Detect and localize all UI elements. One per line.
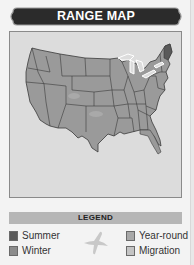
summer-swatch bbox=[9, 231, 18, 241]
us-map bbox=[10, 32, 181, 197]
page-title: RANGE MAP bbox=[9, 7, 183, 26]
range-map-card: RANGE MAP bbox=[0, 0, 190, 265]
header-banner: RANGE MAP bbox=[9, 7, 183, 26]
legend-item-summer: Summer bbox=[9, 230, 60, 242]
bird-silhouette-icon bbox=[80, 229, 110, 261]
legend-item-winter: Winter bbox=[9, 245, 51, 257]
legend-title: LEGEND bbox=[9, 212, 182, 224]
legend-label: Winter bbox=[22, 245, 51, 257]
maine-summer-range bbox=[164, 44, 172, 60]
legend-item-year-round: Year-round bbox=[126, 230, 188, 242]
legend-label: Summer bbox=[22, 230, 60, 242]
legend-label: Migration bbox=[139, 245, 180, 257]
migration-swatch bbox=[126, 246, 135, 256]
range-map bbox=[9, 31, 182, 198]
winter-swatch bbox=[9, 246, 18, 256]
year-round-swatch bbox=[126, 231, 135, 241]
legend-label: Year-round bbox=[139, 230, 188, 242]
page-edge bbox=[190, 0, 194, 265]
legend-item-migration: Migration bbox=[126, 245, 180, 257]
